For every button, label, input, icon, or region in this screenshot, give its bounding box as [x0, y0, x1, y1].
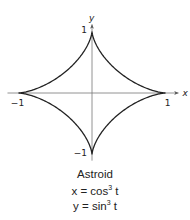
equation-y-fn: sin [92, 200, 107, 212]
equation-y-power: 3 [107, 199, 111, 206]
astroid-plot: x y −1 1 1 −1 [0, 0, 190, 165]
y-tick-label-1: 1 [81, 25, 87, 35]
x-axis-label: x [182, 88, 189, 98]
y-axis-label: y [88, 13, 95, 23]
equation-y-var: t [114, 200, 117, 212]
x-tick-label-neg1: −1 [11, 98, 24, 108]
y-tick-label-neg1: −1 [74, 148, 87, 158]
equation-y: y = sin3 t [0, 196, 190, 213]
x-tick-label-1: 1 [165, 98, 171, 108]
equation-x-power: 3 [108, 184, 112, 191]
equation-y-lhs: y [73, 200, 79, 212]
chart-title: Astroid [0, 167, 190, 181]
